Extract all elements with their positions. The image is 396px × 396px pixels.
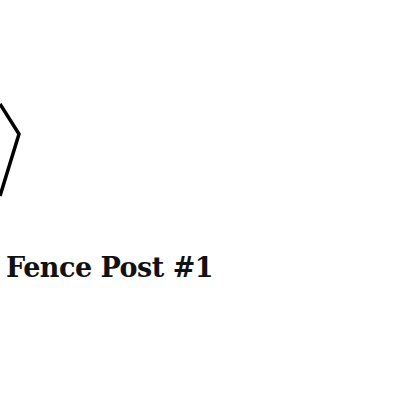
fence-post-outline bbox=[0, 0, 396, 396]
fence-post-label: Fence Post #1 bbox=[6, 252, 213, 283]
